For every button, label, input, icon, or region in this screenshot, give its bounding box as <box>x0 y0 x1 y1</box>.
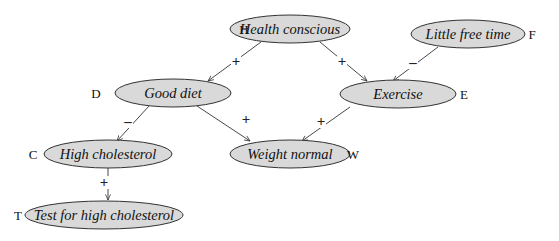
edge-sign-label: – <box>408 54 417 70</box>
node-letter: F <box>528 27 535 42</box>
node-label: Exercise <box>372 86 423 102</box>
edge-sign-label: + <box>100 174 109 190</box>
edge-sign-label: – <box>123 113 132 129</box>
edge-sign-label: + <box>242 111 251 127</box>
node-label: High cholesterol <box>59 146 157 162</box>
node-f: Little free timeF <box>411 20 536 48</box>
edge-h-d: + <box>208 42 261 81</box>
edges-layer: ++––+++ <box>99 42 438 200</box>
node-label: Little free time <box>425 26 511 42</box>
causal-diagram: ++––+++ Health consciousHLittle free tim… <box>0 0 559 241</box>
node-letter: H <box>239 22 248 37</box>
node-h: Health consciousH <box>230 15 350 43</box>
edge-e-w: + <box>302 107 350 141</box>
edge-sign-label: + <box>232 53 241 69</box>
node-e: ExerciseE <box>340 80 468 108</box>
node-letter: C <box>29 147 38 162</box>
edge-sign-label: + <box>317 113 326 129</box>
node-label: Good diet <box>144 85 203 101</box>
nodes-layer: Health consciousHLittle free timeFGood d… <box>14 15 536 229</box>
node-letter: W <box>347 147 360 162</box>
node-letter: D <box>91 86 100 101</box>
edge-f-e: – <box>393 47 438 81</box>
node-label: Health conscious <box>239 21 341 37</box>
node-letter: E <box>460 87 468 102</box>
edge-d-w: + <box>197 106 251 141</box>
node-c: High cholesterolC <box>29 140 172 168</box>
node-label: Weight normal <box>247 146 332 162</box>
node-d: Good dietD <box>91 79 231 107</box>
edge-c-t: + <box>99 168 109 200</box>
node-letter: T <box>14 208 22 223</box>
edge-sign-label: + <box>338 53 347 69</box>
node-label: Test for high cholesterol <box>34 207 174 223</box>
node-w: Weight normalW <box>230 140 360 168</box>
edge-d-c: – <box>117 106 149 141</box>
edge-h-e: + <box>320 42 367 81</box>
node-t: Test for high cholesterolT <box>14 201 183 229</box>
